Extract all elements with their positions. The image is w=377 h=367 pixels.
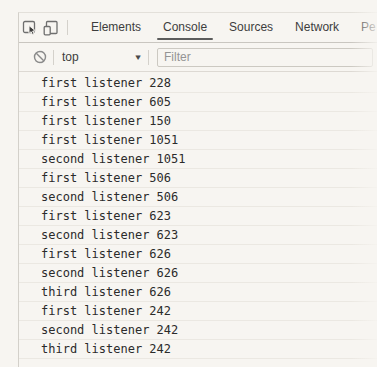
- toggle-device-toolbar-icon[interactable]: [43, 19, 59, 37]
- toolbar-separator: [53, 50, 54, 65]
- console-message: first listener 1051: [19, 131, 377, 150]
- execution-context-selector[interactable]: top ▼: [62, 50, 142, 64]
- console-message: second listener 242: [19, 321, 377, 340]
- block-circle-glyph: [33, 50, 47, 64]
- console-message: first listener 506: [19, 169, 377, 188]
- toolbar-separator: [148, 50, 149, 65]
- panel-tab[interactable]: Network: [284, 13, 350, 42]
- console-message: second listener 506: [19, 188, 377, 207]
- console-message: second listener 626: [19, 264, 377, 283]
- panel-tab-label: Console: [163, 20, 207, 34]
- device-toolbar-glyph: [43, 20, 59, 36]
- console-toolbar: top ▼: [19, 43, 377, 72]
- panel-tab[interactable]: Console: [152, 13, 218, 42]
- panel-tab-label: Sources: [229, 20, 273, 34]
- panel-tab-label: Elements: [91, 20, 141, 34]
- console-message: first listener 605: [19, 93, 377, 112]
- console-message: third listener 242: [19, 340, 377, 359]
- chevron-down-icon: ▼: [133, 53, 142, 62]
- inspect-element-icon[interactable]: [22, 19, 38, 37]
- toolbar-separator: [67, 20, 68, 35]
- console-message: first listener 228: [19, 74, 377, 93]
- panel-tab-label: Network: [295, 20, 339, 34]
- panel-tabs: Elements Console Sources Network Pe: [80, 13, 377, 42]
- execution-context-label: top: [62, 50, 79, 64]
- console-message: first listener 242: [19, 302, 377, 321]
- clear-console-icon[interactable]: [32, 50, 47, 65]
- console-message: first listener 623: [19, 207, 377, 226]
- console-message: first listener 150: [19, 112, 377, 131]
- filter-input[interactable]: [157, 48, 373, 67]
- devtools-tabbar: Elements Console Sources Network Pe: [19, 13, 377, 43]
- panel-tab[interactable]: Pe: [350, 13, 377, 42]
- console-message: first listener 626: [19, 245, 377, 264]
- console-message: third listener 626: [19, 283, 377, 302]
- inspect-element-glyph: [22, 20, 38, 36]
- console-message: second listener 1051: [19, 150, 377, 169]
- panel-tab[interactable]: Elements: [80, 13, 152, 42]
- console-message-list: first listener 228 first listener 605 fi…: [19, 72, 377, 359]
- panel-tab[interactable]: Sources: [218, 13, 284, 42]
- devtools-panel: Elements Console Sources Network Pe: [18, 12, 377, 367]
- console-message: second listener 623: [19, 226, 377, 245]
- panel-tab-label: Pe: [361, 20, 376, 34]
